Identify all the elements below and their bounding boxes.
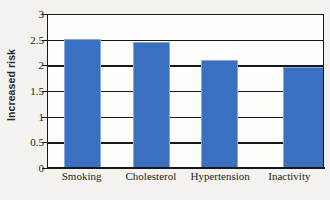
bar-chart-figure: Increased risk 00.511.522.53 SmokingChol… xyxy=(0,0,330,200)
y-axis-tick-label: 2 xyxy=(18,60,44,71)
bar xyxy=(64,39,101,167)
bar xyxy=(133,42,170,167)
y-axis-tick-label: 2.5 xyxy=(18,34,44,45)
y-axis-tick-label: 0 xyxy=(18,163,44,174)
x-axis-line xyxy=(47,167,325,169)
y-axis-tick-label: 1.5 xyxy=(18,86,44,97)
y-axis-title-label: Increased risk xyxy=(5,49,17,121)
bar-slot xyxy=(117,15,186,167)
y-axis-tick-labels: 00.511.522.53 xyxy=(18,8,44,168)
bar xyxy=(283,67,323,167)
bar xyxy=(201,60,238,167)
y-axis-tick-label: 3 xyxy=(18,9,44,20)
x-axis-tick-labels: SmokingCholesterolHypertensionInactivity xyxy=(47,170,324,182)
bar-slot xyxy=(254,15,323,167)
y-axis-tick-label: 1 xyxy=(18,111,44,122)
bar-slot xyxy=(186,15,255,167)
bar-slot xyxy=(48,15,117,167)
x-axis-tick-label: Smoking xyxy=(47,170,116,182)
y-axis-tick-label: 0.5 xyxy=(18,137,44,148)
plot-area xyxy=(47,14,324,168)
x-axis-tick-label: Cholesterol xyxy=(116,170,185,182)
bars-group xyxy=(48,15,323,167)
x-axis-tick-label: Inactivity xyxy=(255,170,324,182)
x-axis-tick-label: Hypertension xyxy=(186,170,255,182)
